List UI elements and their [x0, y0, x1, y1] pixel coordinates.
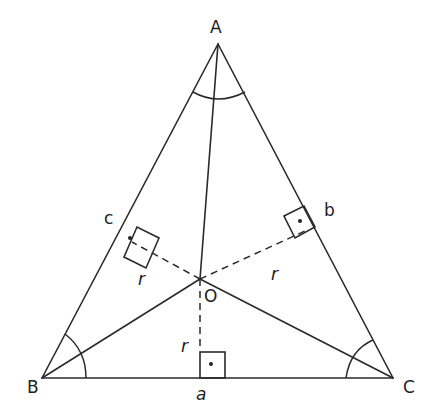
label-side-b: b — [324, 200, 335, 220]
label-radius-bottom: r — [181, 336, 189, 356]
label-radius-right: r — [271, 264, 279, 284]
label-O: O — [204, 286, 217, 306]
right-angle-mark-a — [200, 352, 225, 378]
incircle-diagram: A B C O c b a r r r — [0, 0, 440, 413]
angle-arc-B — [65, 334, 86, 378]
label-radius-left: r — [138, 269, 146, 289]
label-side-a: a — [196, 384, 206, 404]
side-c-AB — [42, 44, 218, 378]
angle-arc-C — [346, 340, 373, 378]
label-C: C — [403, 377, 415, 397]
angle-arc-A — [193, 92, 245, 99]
label-A: A — [210, 17, 222, 37]
label-side-c: c — [104, 208, 113, 228]
bisector-A — [200, 44, 218, 279]
radius-to-b — [200, 231, 305, 279]
bisector-C — [200, 279, 393, 378]
side-b-AC — [218, 44, 393, 378]
label-B: B — [27, 377, 39, 397]
bisector-B — [42, 279, 200, 378]
